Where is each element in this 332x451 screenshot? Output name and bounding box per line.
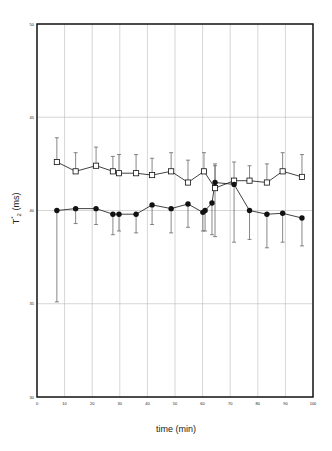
y-axis-label: T*2 (ms) — [10, 178, 23, 238]
y-label-sup: * — [10, 216, 16, 218]
square-marker — [54, 159, 59, 164]
square-marker — [116, 171, 121, 176]
square-marker — [93, 163, 98, 168]
square-marker — [185, 180, 190, 185]
x-tick-label: 40 — [145, 401, 150, 406]
square-marker — [212, 186, 217, 191]
x-tick-label: 80 — [256, 401, 261, 406]
square-marker — [299, 174, 304, 179]
circle-marker — [202, 208, 207, 213]
circle-marker — [299, 215, 304, 220]
square-marker — [280, 169, 285, 174]
circle-marker — [247, 208, 252, 213]
x-tick-label: 70 — [228, 401, 233, 406]
circle-marker — [185, 201, 190, 206]
x-tick-label: 50 — [173, 401, 178, 406]
y-tick-label: 45 — [30, 115, 35, 120]
circle-marker — [264, 212, 269, 217]
square-marker — [149, 172, 154, 177]
y-label-unit: (ms) — [11, 193, 21, 214]
circle-marker — [231, 182, 236, 187]
square-marker — [133, 171, 138, 176]
y-tick-label: 30 — [30, 395, 35, 400]
x-tick-label: 100 — [310, 401, 317, 406]
chart: 01020304050607080901003035404550 — [0, 0, 332, 451]
circle-marker — [54, 208, 59, 213]
circle-marker — [168, 206, 173, 211]
circle-marker — [149, 202, 154, 207]
x-tick-label: 0 — [36, 401, 39, 406]
square-marker — [247, 178, 252, 183]
circle-marker — [116, 212, 121, 217]
y-tick-label: 40 — [30, 208, 35, 213]
x-axis-label: time (min) — [0, 424, 332, 434]
square-marker — [264, 180, 269, 185]
x-tick-label: 30 — [118, 401, 123, 406]
y-label-sub: 2 — [16, 213, 22, 216]
square-marker — [169, 169, 174, 174]
square-marker — [73, 169, 78, 174]
circle-marker — [73, 206, 78, 211]
circle-marker — [209, 200, 214, 205]
y-tick-label: 50 — [30, 22, 35, 27]
circle-marker — [280, 211, 285, 216]
x-tick-label: 90 — [283, 401, 288, 406]
x-tick-label: 10 — [62, 401, 67, 406]
gridlines — [37, 24, 313, 397]
circle-marker — [212, 180, 217, 185]
y-label-base: T — [11, 219, 21, 225]
x-tick-label: 60 — [200, 401, 205, 406]
square-marker — [110, 169, 115, 174]
y-tick-label: 35 — [30, 301, 35, 306]
circle-marker — [93, 206, 98, 211]
circle-marker — [133, 212, 138, 217]
circle-marker — [110, 212, 115, 217]
square-marker — [201, 169, 206, 174]
x-tick-label: 20 — [90, 401, 95, 406]
